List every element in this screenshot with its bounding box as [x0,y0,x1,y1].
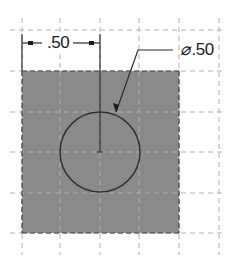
linear-dimension-label: .50 [47,34,69,52]
diameter-dimension-value: .50 [192,40,214,59]
diameter-symbol-icon: ⌀ [180,40,190,59]
diameter-dimension-label: ⌀.50 [180,41,214,59]
arrow-right-icon [89,41,94,45]
linear-dimension-value: .50 [47,33,69,52]
arrow-left-icon [28,41,33,45]
